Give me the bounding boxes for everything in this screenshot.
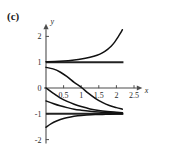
y-tick-label: -2 (35, 136, 42, 145)
plot-area: 0.511.522.5210-1-2 xy (0, 0, 174, 148)
y-tick-label: 0 (38, 84, 42, 93)
axes-group (43, 24, 142, 144)
x-tick-label: 1 (79, 91, 83, 100)
y-tick-label: -1 (35, 110, 42, 119)
x-tick-label: 0.5 (59, 91, 69, 100)
curve-upper-divergent (46, 30, 122, 62)
x-tick-label: 2.5 (129, 91, 139, 100)
x-axis-label: x (144, 86, 149, 95)
axis-names-group: xy (50, 17, 149, 94)
y-axis-arrow (43, 24, 48, 30)
curves-group (46, 30, 122, 128)
x-tick-label: 2 (114, 91, 118, 100)
x-tick-label: 1.5 (94, 91, 104, 100)
y-axis-label: y (50, 17, 55, 26)
figure-panel-c: (c) 0.511.522.5210-1-2 xy (0, 0, 174, 148)
y-tick-label: 1 (38, 58, 42, 67)
curve-from-origin (46, 88, 122, 113)
curve-from-below (46, 114, 122, 127)
y-tick-label: 2 (38, 32, 42, 41)
